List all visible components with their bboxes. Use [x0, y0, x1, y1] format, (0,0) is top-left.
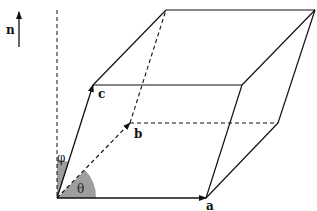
label-a: a: [206, 199, 214, 211]
edge-ab-to-abc: [278, 10, 315, 123]
edge-a-to-ab: [206, 123, 278, 198]
label-n: n: [6, 23, 15, 37]
edge-ac-to-abc: [242, 10, 315, 85]
hidden-edge-b-to-bc: [130, 10, 166, 123]
unit-cell-diagram: n c b a φ θ: [0, 0, 317, 211]
label-b: b: [134, 127, 142, 141]
edge-c-to-bc: [93, 10, 166, 85]
label-c: c: [98, 87, 105, 101]
edge-a-to-ac: [206, 85, 242, 198]
label-theta: θ: [77, 182, 84, 196]
label-phi: φ: [57, 151, 65, 165]
